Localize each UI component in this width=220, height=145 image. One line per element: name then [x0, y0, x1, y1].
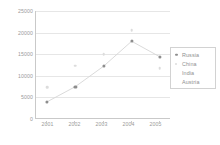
x-axis-tick-mark: [131, 121, 132, 124]
y-axis-tick-label: 20000: [0, 30, 33, 36]
data-point: [46, 86, 49, 89]
data-point: [74, 65, 77, 68]
legend-marker-icon: [175, 62, 177, 64]
line-chart: 25000 20000 15000 10000 5000 0 2001 2002…: [0, 0, 220, 145]
data-point: [158, 67, 161, 70]
x-axis-tick-label: 2005: [143, 121, 169, 128]
x-axis-tick-label: 2001: [35, 121, 61, 128]
y-axis-tick-label: 0: [0, 116, 33, 122]
y-axis-tick-label: 25000: [0, 8, 33, 14]
y-axis-tick-label: 15000: [0, 51, 33, 57]
x-axis-labels: 2001 2002 2003 2004 2005: [35, 121, 170, 133]
x-axis-tick-label: 2003: [89, 121, 115, 128]
legend-item-austria[interactable]: Austria: [171, 77, 215, 86]
y-axis-tick-label: 10000: [0, 73, 33, 79]
plot-area: [35, 11, 170, 119]
legend-label: India: [182, 70, 194, 76]
legend-item-china[interactable]: China: [171, 59, 215, 68]
legend-item-india[interactable]: India: [171, 68, 215, 77]
x-axis-tick-mark: [103, 121, 104, 124]
legend-label: Russia: [182, 52, 199, 58]
y-axis-tick-label: 5000: [0, 94, 33, 100]
x-axis-tick-mark: [159, 121, 160, 124]
legend-marker-icon: [175, 53, 178, 56]
x-axis-tick-mark: [74, 121, 75, 124]
legend-item-russia[interactable]: Russia: [171, 50, 215, 59]
y-axis-labels: 25000 20000 15000 10000 5000 0: [0, 11, 33, 119]
data-point: [130, 29, 133, 32]
x-axis-tick-label: 2004: [116, 121, 142, 128]
legend-marker-icon: [175, 80, 177, 82]
legend-marker-icon: [175, 71, 177, 73]
x-axis-tick-mark: [46, 121, 47, 124]
data-point: [102, 53, 105, 56]
chart-legend: Russia China India Austria: [170, 47, 216, 89]
russia-line: [47, 41, 160, 101]
legend-label: China: [182, 61, 197, 67]
legend-label: Austria: [182, 79, 199, 85]
